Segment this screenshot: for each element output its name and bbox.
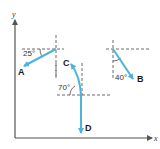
vector-diagram: y x 25° A C 70° D <box>0 0 160 149</box>
vector-a-angle-arc <box>40 49 42 56</box>
vector-c-label: C <box>63 58 70 68</box>
vector-a-label: A <box>18 67 25 77</box>
vector-cd-group: C 70° D <box>56 58 110 133</box>
vector-b-angle-label: 40° <box>115 73 127 82</box>
diagram-canvas: y x 25° A C 70° D <box>0 0 160 149</box>
vector-b-group: 40° B <box>106 40 150 84</box>
vector-a-angle-label: 25° <box>23 49 35 58</box>
y-axis-label: y <box>11 10 16 19</box>
vector-c-arrow <box>71 64 81 95</box>
vector-c-angle-arc <box>70 86 75 95</box>
vector-d-label: D <box>85 123 92 133</box>
vector-b-label: B <box>137 74 144 84</box>
x-axis-label: x <box>153 134 158 143</box>
vector-c-angle-label: 70° <box>58 83 70 92</box>
vector-a-group: 25° A <box>18 35 64 78</box>
